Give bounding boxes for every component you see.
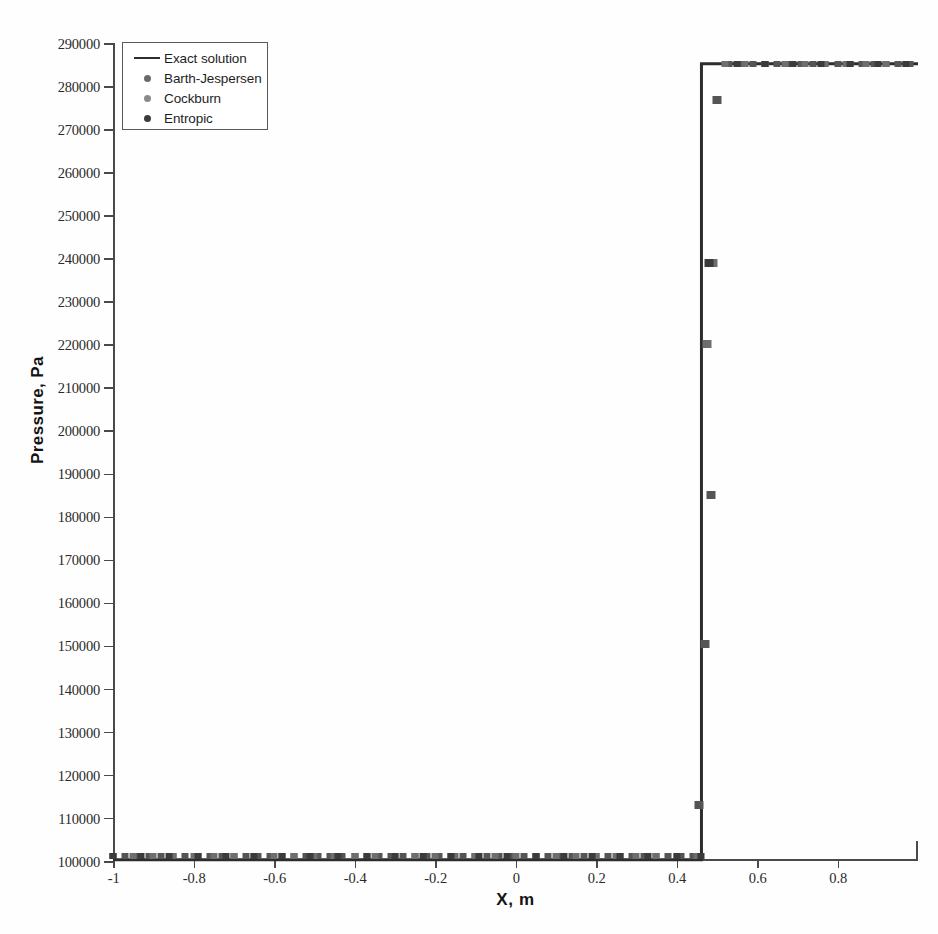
- data-point: [810, 61, 817, 67]
- y-tick-label: 260000: [58, 164, 100, 181]
- data-point: [721, 61, 728, 67]
- data-point: [560, 853, 567, 859]
- y-tick: 240000: [104, 258, 113, 260]
- y-tick: 170000: [104, 560, 113, 562]
- data-point: [605, 853, 612, 859]
- y-tick: 200000: [104, 430, 113, 432]
- data-point: [706, 491, 715, 499]
- y-tick-label: 230000: [58, 294, 100, 311]
- y-tick-label: 170000: [58, 552, 100, 569]
- legend-label: Entropic: [164, 111, 213, 126]
- data-point: [802, 61, 809, 67]
- y-axis-title: Pressure, Pa: [28, 300, 48, 520]
- x-tick-label: -0.2: [424, 870, 447, 887]
- y-tick: 140000: [104, 689, 113, 691]
- data-point: [749, 61, 756, 67]
- data-point: [712, 96, 721, 104]
- legend-marker-icon: [130, 95, 164, 102]
- data-point: [279, 853, 286, 859]
- y-tick-label: 160000: [58, 595, 100, 612]
- data-point: [532, 853, 539, 859]
- data-point: [335, 853, 342, 859]
- data-point: [790, 61, 797, 67]
- x-tick-label: -0.4: [344, 870, 367, 887]
- data-point: [222, 853, 229, 859]
- data-point: [194, 853, 201, 859]
- legend-marker-icon: [130, 75, 164, 82]
- y-tick: 270000: [104, 129, 113, 131]
- legend-item[interactable]: Entropic: [123, 108, 267, 128]
- data-point: [138, 853, 145, 859]
- y-tick: 260000: [104, 172, 113, 174]
- data-point: [476, 853, 483, 859]
- legend-line-key: [130, 57, 164, 60]
- data-point: [242, 853, 249, 859]
- data-point: [697, 853, 704, 859]
- data-point: [371, 853, 378, 859]
- y-tick-label: 110000: [58, 810, 100, 827]
- data-point: [351, 853, 358, 859]
- data-point: [645, 853, 652, 859]
- data-point: [210, 853, 217, 859]
- data-point: [250, 853, 257, 859]
- legend-marker-icon: [130, 115, 164, 122]
- y-tick-label: 180000: [58, 509, 100, 526]
- data-point: [419, 853, 426, 859]
- y-tick-label: 120000: [58, 767, 100, 784]
- data-point: [633, 853, 640, 859]
- data-point: [782, 61, 789, 67]
- data-point: [818, 61, 825, 67]
- x-tick-label: -0.8: [183, 870, 206, 887]
- y-tick: 160000: [104, 603, 113, 605]
- data-point: [411, 853, 418, 859]
- y-tick: 220000: [104, 344, 113, 346]
- data-point: [363, 853, 370, 859]
- data-layer: [113, 43, 918, 861]
- data-point: [291, 853, 298, 859]
- data-point: [673, 853, 680, 859]
- data-point: [741, 61, 748, 67]
- y-tick: 290000: [104, 43, 113, 45]
- pressure-shock-chart: Pressure, Pa X, m 1000001100001200001300…: [0, 0, 938, 934]
- x-tick-label: -1: [108, 870, 120, 887]
- y-tick-label: 270000: [58, 121, 100, 138]
- data-point: [271, 853, 278, 859]
- data-point: [552, 853, 559, 859]
- y-tick-label: 200000: [58, 423, 100, 440]
- data-point: [110, 853, 117, 859]
- y-tick: 250000: [104, 215, 113, 217]
- legend: Exact solution Barth-Jespersen Cockburn …: [122, 42, 268, 130]
- data-point: [130, 853, 137, 859]
- data-point: [653, 853, 660, 859]
- data-point: [694, 801, 703, 809]
- x-tick-label: 0: [513, 870, 520, 887]
- x-tick-label: 0.8: [829, 870, 847, 887]
- data-point: [834, 61, 841, 67]
- data-point: [432, 853, 439, 859]
- data-point: [520, 853, 527, 859]
- y-tick-label: 210000: [58, 380, 100, 397]
- y-tick-label: 100000: [58, 853, 100, 870]
- y-tick: 180000: [104, 517, 113, 519]
- y-tick: 280000: [104, 86, 113, 88]
- y-tick-label: 150000: [58, 638, 100, 655]
- data-point: [702, 340, 711, 348]
- data-point: [460, 853, 467, 859]
- data-point: [448, 853, 455, 859]
- x-tick-label: 0.6: [749, 870, 767, 887]
- data-point: [492, 853, 499, 859]
- legend-item[interactable]: Barth-Jespersen: [123, 68, 267, 88]
- x-tick-label: 0.4: [668, 870, 686, 887]
- data-point: [512, 853, 519, 859]
- data-point: [544, 853, 551, 859]
- legend-item[interactable]: Cockburn: [123, 88, 267, 108]
- data-point: [902, 61, 909, 67]
- data-point: [733, 61, 740, 67]
- y-tick: 190000: [104, 474, 113, 476]
- data-point: [504, 853, 511, 859]
- y-tick: 110000: [104, 818, 113, 820]
- legend-item[interactable]: Exact solution: [123, 48, 267, 68]
- data-point: [862, 61, 869, 67]
- data-point: [846, 61, 853, 67]
- data-point: [894, 61, 901, 67]
